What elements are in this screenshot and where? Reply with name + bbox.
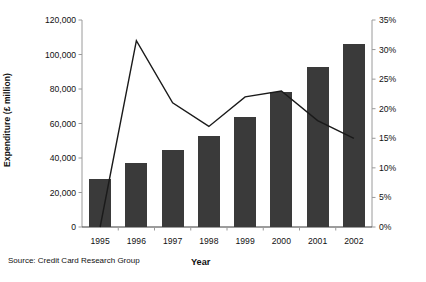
chart-figure: Expenditure (£ million) 020,00040,00060,… (0, 0, 426, 282)
axes (79, 20, 376, 231)
line-series (100, 41, 354, 227)
x-axis-title: Year (191, 257, 210, 267)
chart-canvas (0, 0, 426, 282)
source-note: Source: Credit Card Research Group (8, 256, 140, 265)
